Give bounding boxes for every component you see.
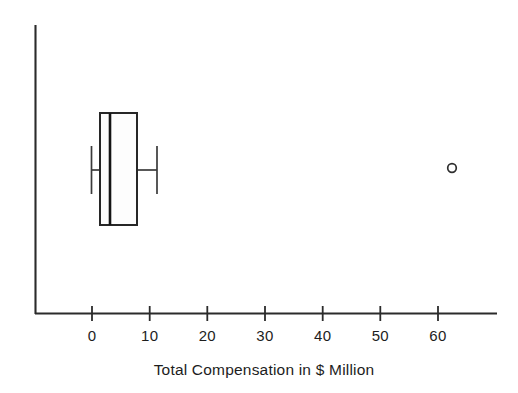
outlier-point <box>448 164 457 173</box>
x-tick-label-0: 0 <box>88 327 97 344</box>
x-tick-label-30: 30 <box>256 327 273 344</box>
x-tick-label-40: 40 <box>314 327 331 344</box>
x-axis-title: Total Compensation in $ Million <box>154 361 375 378</box>
boxplot-series-total-compensation <box>92 113 457 225</box>
x-tick-label-10: 10 <box>141 327 158 344</box>
x-axis-tick-labels: 0 10 20 30 40 50 60 <box>88 327 447 344</box>
boxplot-canvas: 0 10 20 30 40 50 60 Total Compensation i… <box>0 0 518 393</box>
boxplot-figure: 0 10 20 30 40 50 60 Total Compensation i… <box>0 0 518 393</box>
iqr-box <box>100 113 137 225</box>
x-tick-label-20: 20 <box>199 327 216 344</box>
x-tick-label-50: 50 <box>372 327 389 344</box>
x-tick-label-60: 60 <box>429 327 446 344</box>
